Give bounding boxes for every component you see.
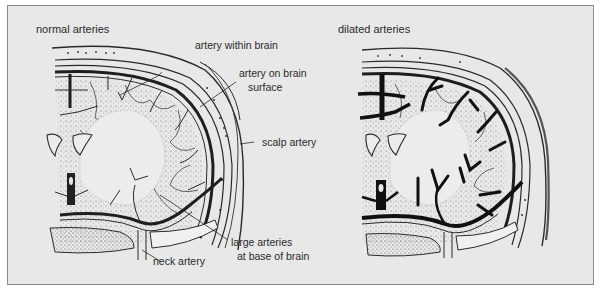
label-artery-on-brain-surface-line2: surface bbox=[248, 81, 282, 93]
dilated-arteries-illustration bbox=[358, 48, 549, 258]
label-large-arteries-line1: large arteries bbox=[231, 236, 292, 248]
label-large-arteries-line2: at base of brain bbox=[237, 250, 309, 262]
label-scalp-artery: scalp artery bbox=[262, 136, 316, 148]
label-artery-within-brain: artery within brain bbox=[195, 39, 278, 51]
panel-title-normal: normal arteries bbox=[36, 23, 109, 35]
label-neck-artery: neck artery bbox=[153, 255, 205, 267]
label-artery-on-brain-surface-line1: artery on brain bbox=[239, 67, 307, 79]
normal-arteries-illustration bbox=[47, 46, 254, 261]
panel-title-dilated: dilated arteries bbox=[338, 23, 410, 35]
